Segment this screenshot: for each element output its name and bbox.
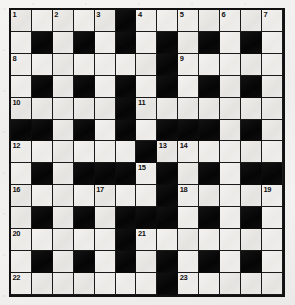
grid-cell[interactable]	[116, 54, 137, 76]
grid-cell[interactable]: 9	[178, 54, 199, 76]
grid-cell[interactable]	[220, 98, 241, 120]
grid-cell[interactable]	[220, 141, 241, 163]
grid-cell[interactable]	[262, 120, 283, 142]
grid-cell[interactable]	[220, 54, 241, 76]
grid-cell[interactable]	[95, 76, 116, 98]
grid-cell[interactable]	[136, 54, 157, 76]
grid-cell[interactable]	[116, 185, 137, 207]
crossword-grid[interactable]: 1234567891011121314151617181920212223	[11, 10, 283, 295]
grid-cell[interactable]	[11, 207, 32, 229]
grid-cell[interactable]	[116, 141, 137, 163]
grid-cell[interactable]	[53, 163, 74, 185]
grid-cell[interactable]	[241, 54, 262, 76]
grid-cell[interactable]: 5	[178, 10, 199, 32]
grid-cell[interactable]	[136, 32, 157, 54]
grid-cell[interactable]	[262, 76, 283, 98]
grid-cell[interactable]	[241, 229, 262, 251]
grid-cell[interactable]	[199, 185, 220, 207]
grid-cell[interactable]	[95, 207, 116, 229]
grid-cell[interactable]	[262, 207, 283, 229]
grid-cell[interactable]	[53, 185, 74, 207]
grid-cell[interactable]: 7	[262, 10, 283, 32]
grid-cell[interactable]	[262, 141, 283, 163]
grid-cell[interactable]: 16	[11, 185, 32, 207]
grid-cell[interactable]	[95, 229, 116, 251]
grid-cell[interactable]	[95, 120, 116, 142]
grid-cell[interactable]	[220, 251, 241, 273]
grid-cell[interactable]	[116, 273, 137, 295]
grid-cell[interactable]	[157, 98, 178, 120]
grid-cell[interactable]	[32, 98, 53, 120]
grid-cell[interactable]	[241, 273, 262, 295]
grid-cell[interactable]	[95, 273, 116, 295]
grid-cell[interactable]: 18	[178, 185, 199, 207]
grid-cell[interactable]	[178, 32, 199, 54]
grid-cell[interactable]	[53, 251, 74, 273]
grid-cell[interactable]	[53, 273, 74, 295]
grid-cell[interactable]	[136, 120, 157, 142]
grid-cell[interactable]	[199, 229, 220, 251]
grid-cell[interactable]	[220, 207, 241, 229]
grid-cell[interactable]	[32, 273, 53, 295]
grid-cell[interactable]	[199, 98, 220, 120]
grid-cell[interactable]	[241, 98, 262, 120]
grid-cell[interactable]	[262, 229, 283, 251]
grid-cell[interactable]: 1	[11, 10, 32, 32]
grid-cell[interactable]: 19	[262, 185, 283, 207]
grid-cell[interactable]	[157, 10, 178, 32]
grid-cell[interactable]	[262, 98, 283, 120]
grid-cell[interactable]: 2	[53, 10, 74, 32]
grid-cell[interactable]	[95, 141, 116, 163]
grid-cell[interactable]: 11	[136, 98, 157, 120]
grid-cell[interactable]	[178, 98, 199, 120]
grid-cell[interactable]	[241, 185, 262, 207]
grid-cell[interactable]	[199, 10, 220, 32]
grid-cell[interactable]: 22	[11, 273, 32, 295]
grid-cell[interactable]	[262, 54, 283, 76]
grid-cell[interactable]	[178, 163, 199, 185]
grid-cell[interactable]	[74, 185, 95, 207]
grid-cell[interactable]	[241, 10, 262, 32]
grid-cell[interactable]	[220, 163, 241, 185]
grid-cell[interactable]	[11, 76, 32, 98]
grid-cell[interactable]	[53, 120, 74, 142]
grid-cell[interactable]	[178, 229, 199, 251]
grid-cell[interactable]	[74, 10, 95, 32]
grid-cell[interactable]	[74, 98, 95, 120]
grid-cell[interactable]	[11, 251, 32, 273]
grid-cell[interactable]	[74, 141, 95, 163]
grid-cell[interactable]	[95, 54, 116, 76]
grid-cell[interactable]	[95, 98, 116, 120]
grid-cell[interactable]	[220, 185, 241, 207]
grid-cell[interactable]	[32, 54, 53, 76]
grid-cell[interactable]: 6	[220, 10, 241, 32]
grid-cell[interactable]	[157, 229, 178, 251]
grid-cell[interactable]	[53, 141, 74, 163]
grid-cell[interactable]	[178, 251, 199, 273]
grid-cell[interactable]	[199, 273, 220, 295]
grid-cell[interactable]	[262, 273, 283, 295]
grid-cell[interactable]	[136, 185, 157, 207]
grid-cell[interactable]	[220, 120, 241, 142]
grid-cell[interactable]	[241, 141, 262, 163]
grid-cell[interactable]	[32, 185, 53, 207]
grid-cell[interactable]	[53, 229, 74, 251]
grid-cell[interactable]	[53, 54, 74, 76]
grid-cell[interactable]	[220, 76, 241, 98]
grid-cell[interactable]: 13	[157, 141, 178, 163]
grid-cell[interactable]	[220, 32, 241, 54]
grid-cell[interactable]	[74, 54, 95, 76]
grid-cell[interactable]: 23	[178, 273, 199, 295]
grid-cell[interactable]: 20	[11, 229, 32, 251]
grid-cell[interactable]: 14	[178, 141, 199, 163]
grid-cell[interactable]	[74, 229, 95, 251]
grid-cell[interactable]	[53, 98, 74, 120]
grid-cell[interactable]	[53, 207, 74, 229]
grid-cell[interactable]	[32, 229, 53, 251]
grid-cell[interactable]: 15	[136, 163, 157, 185]
grid-cell[interactable]	[262, 251, 283, 273]
grid-cell[interactable]	[95, 251, 116, 273]
grid-cell[interactable]	[136, 76, 157, 98]
grid-cell[interactable]	[199, 141, 220, 163]
grid-cell[interactable]	[136, 251, 157, 273]
